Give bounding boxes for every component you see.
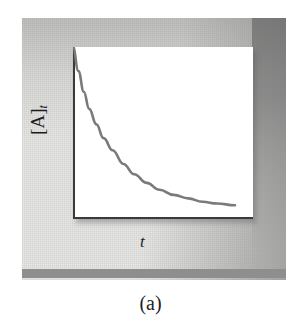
figure-container: [A]t t (a) — [0, 0, 301, 327]
decay-curve — [73, 47, 253, 219]
figure-caption: (a) — [0, 292, 301, 315]
x-axis-label: t — [140, 232, 145, 252]
panel-right-shading — [252, 18, 286, 280]
y-axis-label: [A]t — [27, 102, 51, 138]
plot-area — [73, 47, 253, 219]
y-axis-label-main: [A] — [27, 108, 48, 134]
panel-bottom-band — [22, 269, 286, 278]
y-axis-label-subscript: t — [36, 105, 50, 108]
